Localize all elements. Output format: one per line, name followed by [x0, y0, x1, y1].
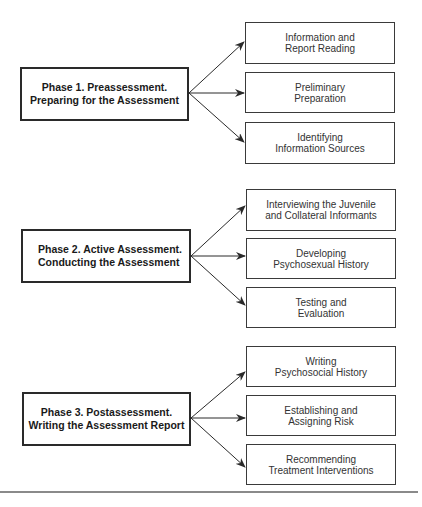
step-label: Preliminary [295, 82, 345, 93]
phase-2-title: Phase 2. Active Assessment. [38, 243, 182, 256]
step-label: Assigning Risk [288, 416, 354, 427]
step-label: Treatment Interventions [268, 465, 373, 476]
phase-1-step-2: Preliminary Preparation [245, 72, 395, 113]
phase-3-box: Phase 3. Postassessment. Writing the Ass… [22, 392, 191, 446]
phase-2-box: Phase 2. Active Assessment. Conducting t… [21, 229, 191, 283]
phase-3-step-2: Establishing and Assigning Risk [246, 395, 396, 436]
step-label: Report Reading [285, 43, 355, 54]
step-label: Evaluation [298, 308, 345, 319]
step-label: Writing [306, 356, 337, 367]
bottom-divider [0, 491, 418, 493]
step-label: and Collateral Informants [265, 210, 377, 221]
arrow-right-icon [191, 372, 245, 418]
step-label: Information Sources [275, 143, 365, 154]
phase-3-step-1: Writing Psychosocial History [246, 346, 396, 387]
phase-1-title: Phase 1. Preassessment. [42, 81, 168, 94]
arrow-right-icon [191, 418, 245, 467]
arrow-right-icon [189, 42, 244, 93]
arrow-right-icon [189, 93, 244, 142]
phase-2-step-3: Testing and Evaluation [246, 287, 396, 328]
phase-1-step-3: Identifying Information Sources [245, 122, 395, 164]
phase-2-step-2: Developing Psychosexual History [246, 238, 396, 279]
step-label: Interviewing the Juvenile [266, 199, 376, 210]
step-label: Recommending [286, 454, 356, 465]
step-label: Testing and [295, 297, 346, 308]
arrow-right-icon [191, 206, 245, 256]
phase-2-step-1: Interviewing the Juvenile and Collateral… [246, 189, 396, 231]
phase-1-box: Phase 1. Preassessment. Preparing for th… [20, 67, 189, 121]
phase-2-arrows [191, 206, 245, 305]
phase-3-title: Phase 3. Postassessment. [41, 406, 172, 419]
step-label: Developing [296, 248, 346, 259]
phase-2-subtitle: Conducting the Assessment [38, 256, 179, 269]
phase-3-arrows [191, 372, 245, 467]
step-label: Preparation [294, 93, 346, 104]
step-label: Psychosexual History [273, 259, 369, 270]
phase-3-subtitle: Writing the Assessment Report [29, 419, 185, 432]
step-label: Establishing and [284, 405, 357, 416]
phase-3-step-3: Recommending Treatment Interventions [246, 444, 396, 485]
phase-1-subtitle: Preparing for the Assessment [30, 94, 179, 107]
step-label: Information and [285, 32, 355, 43]
step-label: Identifying [297, 132, 343, 143]
step-label: Psychosocial History [275, 367, 367, 378]
phase-1-step-1: Information and Report Reading [245, 22, 395, 64]
arrow-right-icon [191, 256, 245, 305]
phase-1-arrows [189, 42, 244, 142]
